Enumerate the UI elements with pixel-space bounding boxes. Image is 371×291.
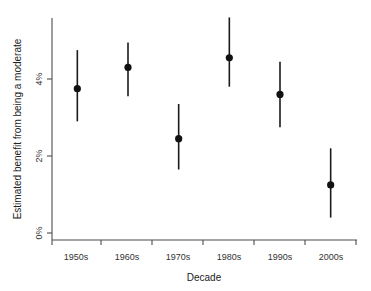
- x-axis-title: Decade: [187, 272, 222, 283]
- data-point-1990s: [276, 91, 283, 98]
- data-point-1960s: [124, 64, 131, 71]
- x-tick-label-2000s: 2000s: [319, 252, 344, 262]
- y-tick-label-2: 2%: [34, 149, 44, 162]
- x-tick-label-1960s: 1960s: [115, 252, 140, 262]
- x-tick-label-1980s: 1980s: [217, 252, 242, 262]
- data-marks-group: [74, 17, 335, 217]
- x-tick-label-1970s: 1970s: [166, 252, 191, 262]
- x-tick-label-1990s: 1990s: [268, 252, 293, 262]
- data-point-1970s: [175, 135, 182, 142]
- x-tick-label-1950s: 1950s: [64, 252, 89, 262]
- data-point-1950s: [74, 85, 81, 92]
- y-tick-label-4: 4%: [34, 72, 44, 85]
- y-axis-title: Estimated benefit from being a moderate: [12, 38, 23, 219]
- y-tick-label-0: 0%: [34, 226, 44, 239]
- scatter-plot-with-error-bars: 0% 2% 4% Estimated benefit from being a …: [0, 0, 371, 291]
- data-point-1980s: [226, 54, 233, 61]
- data-point-2000s: [327, 181, 334, 188]
